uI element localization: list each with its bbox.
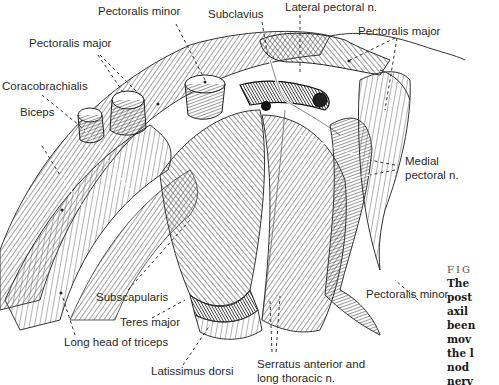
label-latissimus-dorsi: Latissimus dorsi [151, 365, 233, 378]
caption-line: The [447, 277, 469, 290]
axilla-illustration [0, 0, 499, 385]
caption-line: been [447, 319, 475, 332]
label-teres-major: Teres major [120, 316, 180, 329]
label-subclavius: Subclavius [208, 8, 264, 21]
label-coracobrachialis: Coracobrachialis [2, 80, 88, 93]
label-pectoralis-major-left: Pectoralis major [29, 37, 111, 50]
label-lateral-pectoral-nerve: Lateral pectoral n. [285, 1, 377, 14]
label-long-head-of-triceps: Long head of triceps [64, 336, 168, 349]
label-biceps: Biceps [20, 106, 55, 119]
label-medial-pectoral-nerve-line1: Medial [405, 155, 439, 168]
caption-line: mov [447, 333, 471, 346]
label-serratus-anterior-line1: Serratus anterior and [257, 358, 365, 371]
label-medial-pectoral-nerve-line2: pectoral n. [405, 169, 459, 182]
label-subscapularis: Subscapularis [96, 291, 168, 304]
caption-line: post [447, 291, 472, 304]
caption-heading: FIG [447, 264, 472, 275]
caption-line: axil [447, 305, 468, 318]
label-pectoralis-minor-bottom: Pectoralis minor [366, 288, 448, 301]
caption-line: nerv [447, 375, 473, 385]
caption-line: nod [447, 361, 469, 374]
subscapularis-muscle [160, 110, 265, 306]
anatomy-figure: Pectoralis minor Subclavius Lateral pect… [0, 0, 499, 385]
caption-line: the l [447, 347, 474, 360]
label-serratus-anterior-line2: long thoracic n. [257, 372, 335, 385]
pectoralis-major-reflected [359, 72, 411, 270]
subclavius-muscle [260, 33, 390, 75]
label-pectoralis-major-right: Pectoralis major [358, 25, 440, 38]
label-pectoralis-minor-top: Pectoralis minor [98, 5, 180, 18]
